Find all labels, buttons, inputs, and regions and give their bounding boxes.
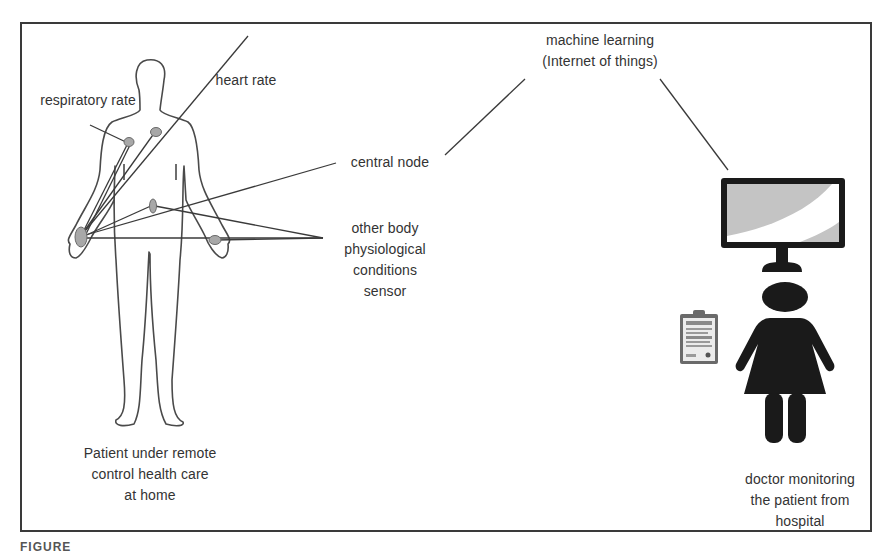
doctor-line2: the patient from [725,490,875,511]
doctor-label: doctor monitoring the patient from hospi… [725,469,875,532]
central-node-label: central node [335,152,445,173]
patient-line1: Patient under remote [55,443,245,464]
other-sensor-label: other body physiological conditions sens… [325,218,445,302]
heart-rate-label: heart rate [196,70,296,91]
central-node-text: central node [335,152,445,173]
patient-label: Patient under remote control health care… [55,443,245,506]
patient-line3: at home [55,485,245,506]
wrist-sensor [209,236,221,245]
computer-monitor-icon [721,178,845,272]
patient-line2: control health care [55,464,245,485]
machine-learning-line2: (Internet of things) [510,51,690,72]
heart-rate-text: heart rate [196,70,296,91]
respiratory-sensor [124,138,134,147]
heart-sensor [151,128,162,137]
human-body-outline-icon [68,60,229,426]
doctor-line1: doctor monitoring [725,469,875,490]
other-sensor-line2: physiological [325,239,445,260]
other-sensor-line3: conditions [325,260,445,281]
machine-learning-label: machine learning (Internet of things) [510,30,690,72]
other-sensor-line1: other body [325,218,445,239]
respiratory-rate-label: respiratory rate [38,90,138,111]
machine-learning-line1: machine learning [510,30,690,51]
figure-caption: FIGURE [20,540,71,553]
central-node-sensor [75,227,87,247]
other-sensor-line4: sensor [325,281,445,302]
female-person-icon [736,282,835,443]
doctor-line3: hospital [725,511,875,532]
respiratory-rate-text: respiratory rate [38,90,138,111]
clipboard-icon [680,310,718,364]
abdomen-sensor [150,199,157,213]
